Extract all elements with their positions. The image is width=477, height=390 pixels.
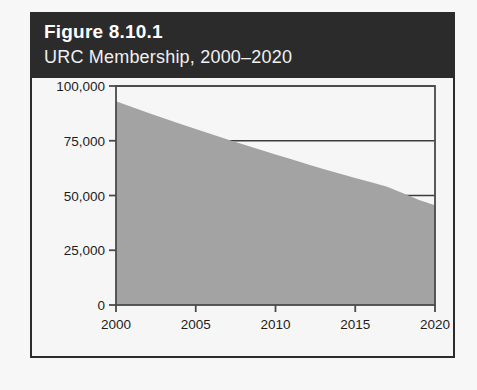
- x-tick-label: 2005: [181, 317, 211, 332]
- x-tick-label: 2000: [101, 317, 131, 332]
- x-tick-label: 2015: [340, 317, 370, 332]
- y-tick-label: 100,000: [56, 79, 105, 94]
- membership-area-chart: 025,00050,00075,000100,000 2000200520102…: [32, 78, 453, 356]
- x-tick-label: 2020: [420, 317, 450, 332]
- figure-card: Figure 8.10.1 URC Membership, 2000–2020 …: [30, 12, 455, 358]
- y-tick-label: 25,000: [64, 243, 105, 258]
- y-tick-label: 75,000: [64, 134, 105, 149]
- chart-plot-region: 025,00050,00075,000100,000 2000200520102…: [32, 78, 453, 356]
- y-tick-label: 0: [97, 298, 105, 313]
- figure-number: Figure 8.10.1: [44, 20, 453, 44]
- x-tick-label: 2010: [260, 317, 290, 332]
- figure-subtitle: URC Membership, 2000–2020: [44, 44, 453, 70]
- y-tick-label: 50,000: [64, 189, 105, 204]
- figure-header: Figure 8.10.1 URC Membership, 2000–2020: [32, 14, 453, 78]
